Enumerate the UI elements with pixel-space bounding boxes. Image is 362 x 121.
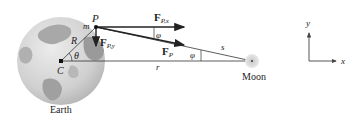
point-p — [94, 25, 98, 29]
label-phi-1: φ — [156, 30, 161, 40]
label-c: C — [57, 65, 64, 76]
label-moon: Moon — [242, 71, 266, 82]
label-earth: Earth — [50, 104, 72, 115]
label-phi-2: φ — [190, 50, 195, 60]
label-axis-x: x — [340, 56, 345, 66]
moon-center — [251, 60, 253, 62]
label-m: m — [83, 21, 90, 31]
coordinate-axes: y x — [305, 18, 345, 66]
label-axis-y: y — [305, 18, 310, 28]
label-force-y: FP,y — [100, 36, 116, 50]
label-theta: θ — [74, 50, 79, 61]
center-point-c — [59, 59, 63, 63]
label-force-x: FP,x — [154, 11, 170, 25]
label-s: s — [221, 42, 225, 52]
label-force-p: FP — [162, 45, 174, 59]
earth-moon-diagram: P m R θ C FP,x FP,y FP φ φ r s Moon Eart… — [0, 0, 362, 121]
label-p: P — [91, 12, 99, 24]
label-R: R — [70, 35, 77, 46]
label-r: r — [156, 62, 160, 72]
